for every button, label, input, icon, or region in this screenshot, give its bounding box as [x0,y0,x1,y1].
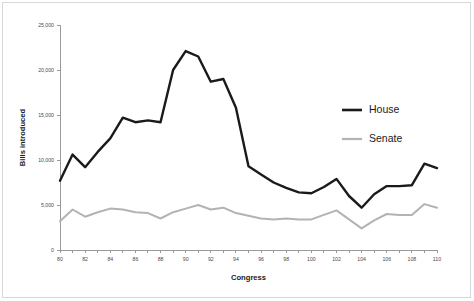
x-tick-label: 102 [332,256,341,262]
series-line-senate [60,204,437,228]
y-tick-label: 10,000 [38,157,54,163]
x-tick-label: 104 [357,256,366,262]
x-tick-label: 88 [158,256,164,262]
x-tick-label: 100 [307,256,316,262]
x-tick-label: 106 [382,256,391,262]
line-chart: 05,00010,00015,00020,00025,0008082848688… [0,0,474,301]
x-axis: 80828486889092949698100102104106108110 [57,250,441,262]
x-tick-label: 110 [433,256,441,262]
x-tick-label: 90 [183,256,189,262]
y-tick-label: 0 [51,247,54,253]
x-tick-label: 92 [208,256,214,262]
y-axis: 05,00010,00015,00020,00025,000 [38,22,60,253]
x-tick-label: 80 [57,256,63,262]
x-tick-label: 108 [408,256,417,262]
x-tick-label: 96 [258,256,264,262]
legend-label-senate: Senate [369,132,402,144]
x-tick-label: 94 [233,256,239,262]
y-tick-label: 15,000 [38,112,54,118]
y-tick-label: 25,000 [38,22,54,28]
series-line-house [60,51,437,208]
y-tick-label: 20,000 [38,67,54,73]
legend-label-house: House [369,103,400,115]
x-tick-label: 98 [283,256,289,262]
chart-figure: 05,00010,00015,00020,00025,0008082848688… [0,0,474,301]
chart-legend: HouseSenate [342,103,402,144]
x-tick-label: 82 [82,256,88,262]
x-tick-label: 84 [107,256,113,262]
y-axis-title: Bills introduced [18,108,27,166]
x-axis-title: Congress [231,273,266,282]
y-tick-label: 5,000 [41,202,54,208]
x-tick-label: 86 [133,256,139,262]
